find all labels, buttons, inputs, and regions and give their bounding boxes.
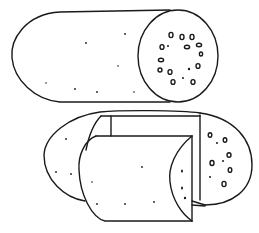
cut-sausage bbox=[44, 111, 252, 221]
whole-sausage bbox=[12, 10, 218, 102]
sausage-drawing bbox=[0, 0, 259, 233]
illustration: Line drawing of two sausages: a whole sa… bbox=[0, 0, 259, 233]
